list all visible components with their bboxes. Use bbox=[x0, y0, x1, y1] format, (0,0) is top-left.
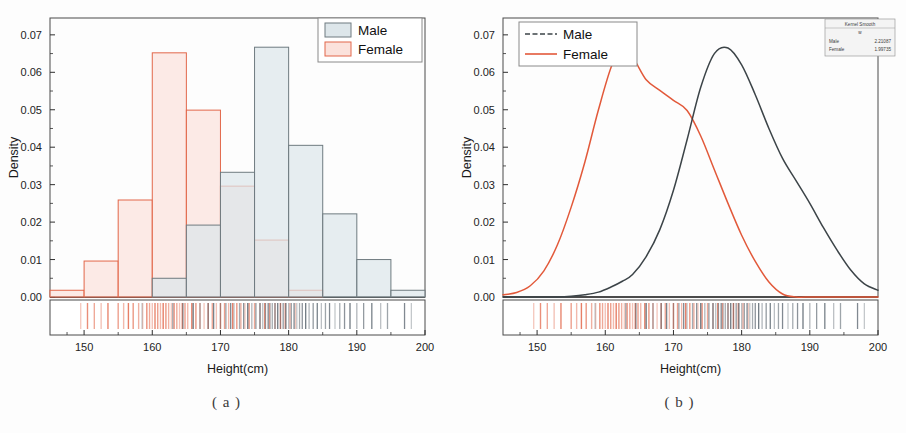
legend-swatch-female bbox=[325, 42, 351, 56]
y-tick-label: 0.07 bbox=[474, 29, 495, 41]
panel-a-legend[interactable]: MaleFemale bbox=[318, 18, 422, 62]
x-axis-title: Height(cm) bbox=[660, 362, 721, 376]
x-tick-label: 200 bbox=[416, 341, 434, 353]
info-box-row-value: 2.21087 bbox=[874, 39, 891, 44]
kernel-smooth-info-box: Kernel SmoothwMale2.21087Female1.99735 bbox=[825, 19, 895, 56]
y-tick-label: 0.00 bbox=[21, 291, 42, 303]
y-tick-label: 0.01 bbox=[474, 254, 495, 266]
info-box-row-label: Male bbox=[829, 39, 839, 44]
y-tick-label: 0.03 bbox=[21, 179, 42, 191]
x-tick-label: 160 bbox=[143, 341, 161, 353]
x-tick-label: 150 bbox=[75, 341, 93, 353]
histogram-bar bbox=[118, 200, 152, 297]
caption-b: ( b ) bbox=[453, 394, 906, 411]
panel-a-svg: 0.000.010.020.030.040.050.060.0715016017… bbox=[0, 0, 453, 400]
histogram-bar bbox=[220, 172, 254, 297]
histogram-bar bbox=[152, 278, 186, 297]
x-tick-label: 170 bbox=[211, 341, 229, 353]
x-tick-label: 190 bbox=[348, 341, 366, 353]
x-tick-label: 200 bbox=[869, 341, 887, 353]
x-tick-label: 180 bbox=[279, 341, 297, 353]
y-tick-label: 0.02 bbox=[474, 216, 495, 228]
histogram-bar bbox=[357, 260, 391, 297]
y-tick-label: 0.03 bbox=[474, 179, 495, 191]
legend-label-male: Male bbox=[563, 27, 592, 42]
x-tick-label: 150 bbox=[528, 341, 546, 353]
histogram-bar bbox=[50, 290, 84, 297]
histogram-bar bbox=[255, 47, 289, 297]
y-tick-label: 0.06 bbox=[21, 66, 42, 78]
histogram-bar bbox=[152, 53, 186, 297]
density-curve-male bbox=[503, 47, 878, 297]
figure-container: 0.000.010.020.030.040.050.060.0715016017… bbox=[0, 0, 906, 433]
y-tick-label: 0.04 bbox=[474, 141, 495, 153]
info-box-row-label: Female bbox=[829, 47, 845, 52]
panel-a: 0.000.010.020.030.040.050.060.0715016017… bbox=[0, 0, 453, 433]
histogram-bar bbox=[391, 290, 425, 297]
y-tick-label: 0.01 bbox=[21, 254, 42, 266]
y-tick-label: 0.02 bbox=[21, 216, 42, 228]
legend-label-female: Female bbox=[563, 47, 608, 62]
panel-b-svg: 0.000.010.020.030.040.050.060.0715016017… bbox=[453, 0, 906, 400]
x-tick-label: 170 bbox=[664, 341, 682, 353]
x-tick-label: 190 bbox=[801, 341, 819, 353]
legend-label-female: Female bbox=[358, 42, 403, 57]
legend-label-male: Male bbox=[358, 23, 387, 38]
y-tick-label: 0.04 bbox=[21, 141, 42, 153]
y-tick-label: 0.05 bbox=[21, 104, 42, 116]
y-tick-label: 0.07 bbox=[21, 29, 42, 41]
panel-b-legend[interactable]: MaleFemale bbox=[519, 22, 637, 66]
info-box-row-value: 1.99735 bbox=[874, 47, 891, 52]
histogram-bar bbox=[289, 145, 323, 297]
density-curve-female bbox=[503, 52, 878, 297]
histogram-bar bbox=[186, 225, 220, 297]
y-tick-label: 0.06 bbox=[474, 66, 495, 78]
legend-swatch-male bbox=[325, 23, 351, 37]
x-tick-label: 160 bbox=[596, 341, 614, 353]
x-axis-title: Height(cm) bbox=[207, 362, 268, 376]
histogram-bar bbox=[323, 214, 357, 297]
y-axis-title: Density bbox=[7, 136, 21, 178]
caption-a: ( a ) bbox=[0, 394, 453, 411]
y-tick-label: 0.00 bbox=[474, 291, 495, 303]
y-axis-title: Density bbox=[460, 136, 474, 178]
histogram-bar bbox=[84, 261, 118, 297]
y-tick-label: 0.05 bbox=[474, 104, 495, 116]
x-tick-label: 180 bbox=[732, 341, 750, 353]
panel-b: 0.000.010.020.030.040.050.060.0715016017… bbox=[453, 0, 906, 433]
info-box-title: Kernel Smooth bbox=[845, 22, 876, 27]
